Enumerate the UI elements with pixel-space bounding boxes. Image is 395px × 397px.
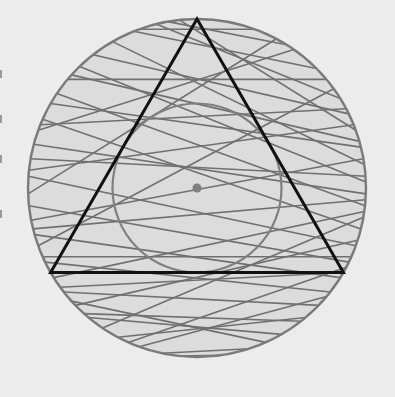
left-edge-marks	[0, 60, 3, 260]
edge-mark	[0, 70, 2, 78]
center-point	[193, 184, 202, 193]
edge-mark	[0, 210, 2, 218]
chord-diagram	[0, 0, 395, 397]
edge-mark	[0, 115, 2, 123]
edge-mark	[0, 155, 2, 163]
